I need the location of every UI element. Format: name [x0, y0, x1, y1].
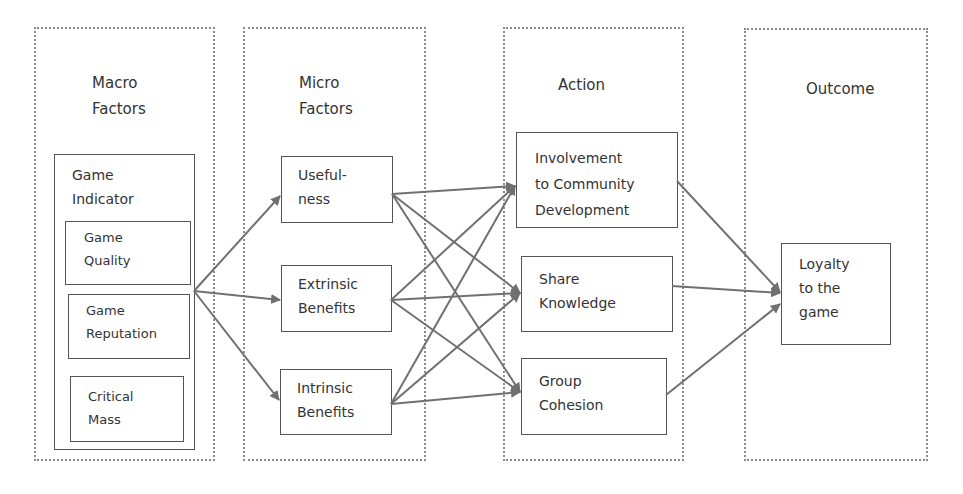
- edge-usefulness-group: [392, 194, 520, 392]
- edge-group-loyalty: [666, 304, 780, 395]
- edge-usefulness-share: [392, 194, 520, 293]
- edges-layer: [0, 0, 963, 494]
- edge-indicator-extrinsic: [194, 291, 280, 300]
- edge-intrinsic-share: [391, 293, 520, 404]
- edge-indicator-intrinsic: [194, 291, 279, 400]
- edge-involvement-loyalty: [677, 181, 780, 292]
- edge-share-loyalty: [672, 286, 780, 293]
- edge-indicator-usefulness: [194, 196, 280, 291]
- edge-usefulness-involvement: [392, 186, 515, 194]
- edge-intrinsic-group: [391, 392, 520, 404]
- edge-extrinsic-group: [391, 300, 520, 392]
- edge-extrinsic-involvement: [391, 186, 515, 300]
